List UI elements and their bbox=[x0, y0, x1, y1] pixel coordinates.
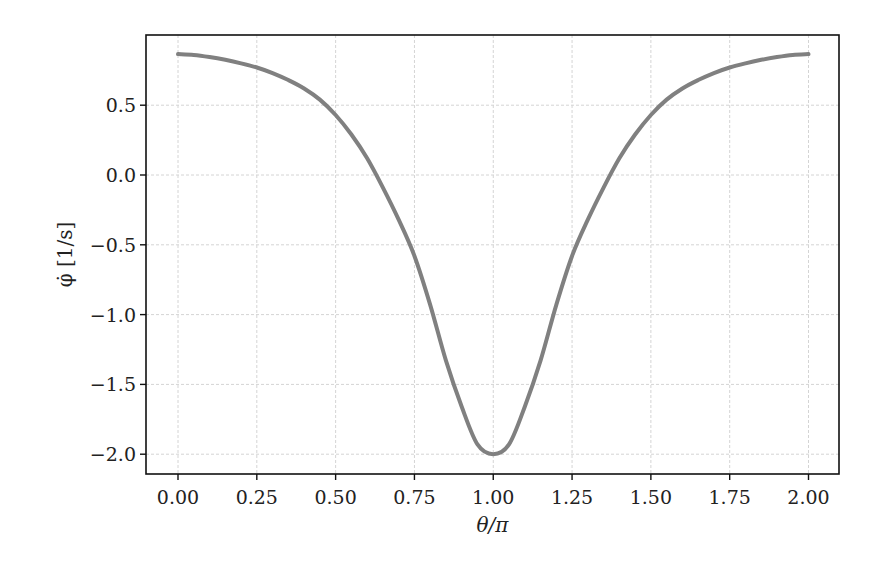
y-gridlines bbox=[146, 105, 839, 454]
x-gridlines bbox=[178, 35, 809, 474]
x-tick-label: 1.50 bbox=[630, 486, 672, 508]
x-tick-label: 0.25 bbox=[236, 486, 278, 508]
y-tick-label: 0.0 bbox=[106, 164, 136, 186]
x-tick-label: 1.00 bbox=[472, 486, 514, 508]
x-tick-label: 2.00 bbox=[787, 486, 829, 508]
x-axis-label: θ/π bbox=[477, 513, 510, 537]
y-tick-label: 0.5 bbox=[106, 94, 136, 116]
line-chart: 0.000.250.500.751.001.251.501.752.00 0.5… bbox=[0, 0, 880, 566]
y-tick-label: −1.0 bbox=[90, 304, 136, 326]
x-tick-label: 1.25 bbox=[551, 486, 593, 508]
data-curve bbox=[178, 54, 809, 454]
x-tick-label: 1.75 bbox=[709, 486, 751, 508]
y-axis-label: φ̇ [1/s] bbox=[53, 222, 77, 288]
x-tick-label: 0.75 bbox=[393, 486, 435, 508]
x-tick-label: 0.50 bbox=[314, 486, 356, 508]
axes-frame bbox=[146, 35, 839, 474]
x-axis-ticks: 0.000.250.500.751.001.251.501.752.00 bbox=[157, 474, 830, 508]
x-tick-label: 0.00 bbox=[157, 486, 199, 508]
y-tick-label: −0.5 bbox=[90, 234, 136, 256]
y-tick-label: −1.5 bbox=[90, 373, 136, 395]
y-axis-ticks: 0.50.0−0.5−1.0−1.5−2.0 bbox=[90, 94, 146, 465]
y-tick-label: −2.0 bbox=[90, 443, 136, 465]
